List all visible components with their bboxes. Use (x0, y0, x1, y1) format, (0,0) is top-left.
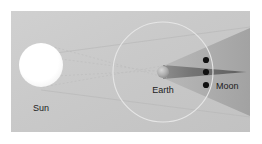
earth-label: Earth (152, 85, 174, 95)
sun-label: Sun (33, 103, 49, 113)
moon-position-3 (203, 82, 209, 88)
eclipse-diagram-svg: Sun Earth Moon (11, 11, 250, 132)
figure-root: Sun Earth Moon (0, 0, 262, 144)
earth-body (157, 66, 169, 78)
moon-position-1 (203, 57, 209, 63)
moon-position-2 (203, 69, 209, 75)
sun-body (19, 43, 63, 87)
moon-label: Moon (216, 81, 239, 91)
diagram-panel: Sun Earth Moon (11, 11, 250, 132)
